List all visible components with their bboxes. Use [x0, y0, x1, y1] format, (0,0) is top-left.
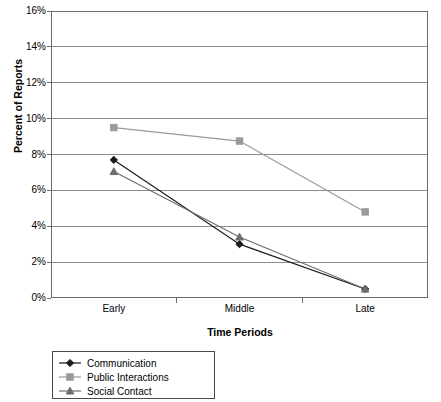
marker-square	[67, 374, 73, 380]
series-social-contact	[110, 168, 369, 292]
legend-item-public-interactions[interactable]: Public Interactions	[53, 370, 214, 384]
legend-label: Social Contact	[87, 386, 151, 397]
marker-square	[236, 138, 242, 144]
legend-label: Communication	[87, 358, 156, 369]
line-chart: Percent of Reports 0%2%4%6%8%10%12%14%16…	[0, 0, 441, 402]
marker-diamond	[236, 241, 243, 248]
x-tick-label-early: Early	[59, 303, 169, 314]
x-tick-label-late: Late	[310, 303, 420, 314]
series-public-interactions	[111, 124, 369, 215]
chart-legend: CommunicationPublic InteractionsSocial C…	[52, 351, 215, 399]
series-communication	[110, 156, 369, 292]
marker-square	[362, 209, 368, 215]
marker-triangle	[110, 168, 118, 175]
marker-triangle	[236, 233, 244, 240]
legend-swatch-triangle-icon	[53, 384, 87, 398]
legend-item-communication[interactable]: Communication	[53, 356, 214, 370]
plot-area	[0, 0, 441, 402]
legend-label: Public Interactions	[87, 372, 169, 383]
series-line	[114, 160, 365, 289]
marker-diamond	[110, 156, 117, 163]
x-tick-label-middle: Middle	[185, 303, 295, 314]
marker-diamond	[66, 359, 73, 366]
series-line	[114, 172, 365, 289]
legend-swatch-diamond-icon	[53, 356, 87, 370]
x-axis-title: Time Periods	[51, 326, 429, 338]
legend-swatch-square-icon	[53, 370, 87, 384]
marker-square	[111, 124, 117, 130]
legend-item-social-contact[interactable]: Social Contact	[53, 384, 214, 398]
